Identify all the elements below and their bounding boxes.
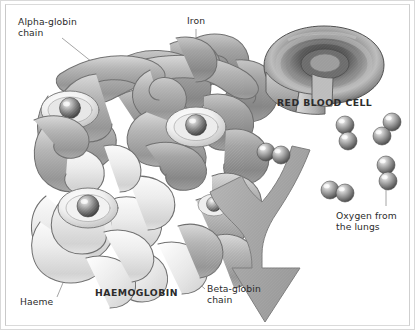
oxygen-molecule-o2 — [321, 181, 354, 202]
label-red-blood-cell: RED BLOOD CELL — [277, 97, 372, 108]
diagram-artwork — [0, 0, 415, 330]
label-alpha-globin-chain: Alpha-globin chain — [18, 16, 77, 38]
oxygen-molecule-o2 — [377, 156, 397, 190]
label-haemoglobin: HAEMOGLOBIN — [95, 287, 178, 298]
haemoglobin-diagram: Alpha-globin chain Iron RED BLOOD CELL H… — [0, 0, 415, 330]
label-iron: Iron — [187, 15, 205, 26]
label-oxygen-from-lungs: Oxygen from the lungs — [336, 210, 397, 232]
oxygen-molecule-o2 — [336, 116, 357, 150]
label-beta-globin-chain: Beta-globin chain — [207, 283, 261, 305]
label-haeme: Haeme — [20, 296, 53, 307]
